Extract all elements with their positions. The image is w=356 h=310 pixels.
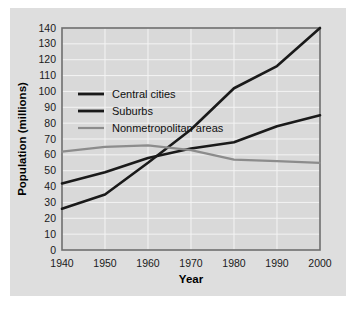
legend-label: Central cities	[112, 88, 176, 100]
y-tick-label: 130	[38, 37, 56, 49]
y-tick-label: 0	[50, 244, 56, 256]
y-tick-label: 120	[38, 53, 56, 65]
x-tick-label: 1960	[136, 257, 160, 269]
y-tick-label: 30	[44, 196, 56, 208]
y-tick-label: 80	[44, 117, 56, 129]
x-tick-label: 1940	[50, 257, 74, 269]
x-tick-label: 1950	[93, 257, 117, 269]
x-tick-label: 2000	[308, 257, 332, 269]
chart-figure: 0102030405060708090100110120130140 19401…	[10, 8, 346, 296]
y-tick-label: 10	[44, 228, 56, 240]
y-tick-label: 60	[44, 148, 56, 160]
y-tick-label: 90	[44, 101, 56, 113]
y-axis-tick-labels: 0102030405060708090100110120130140	[38, 22, 56, 256]
x-tick-label: 1980	[222, 257, 246, 269]
x-axis-tick-labels: 1940195019601970198019902000	[50, 257, 332, 269]
y-tick-label: 50	[44, 164, 56, 176]
legend-label: Suburbs	[112, 105, 153, 117]
x-axis-title: Year	[179, 273, 204, 285]
y-tick-label: 70	[44, 133, 56, 145]
legend-label: Nonmetropolitan areas	[112, 122, 224, 134]
y-tick-label: 100	[38, 85, 56, 97]
y-tick-label: 40	[44, 180, 56, 192]
y-tick-label: 140	[38, 22, 56, 34]
x-tick-label: 1990	[265, 257, 289, 269]
y-tick-label: 20	[44, 212, 56, 224]
population-line-chart: 0102030405060708090100110120130140 19401…	[10, 8, 346, 296]
y-axis-title: Population (millions)	[16, 82, 28, 196]
y-tick-label: 110	[39, 69, 56, 81]
x-tick-label: 1970	[179, 257, 203, 269]
